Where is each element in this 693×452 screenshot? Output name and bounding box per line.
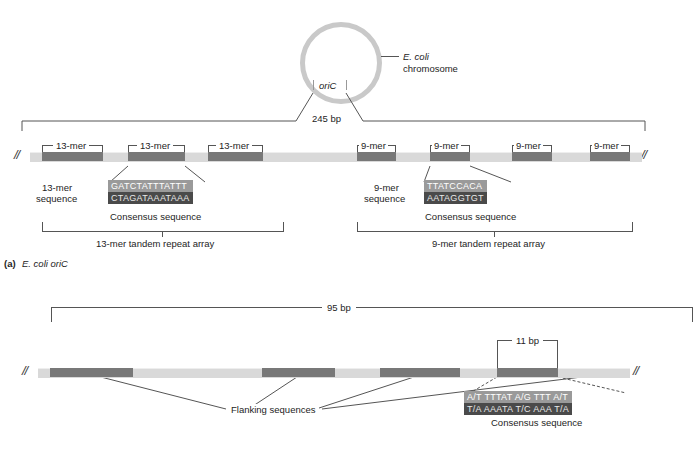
thirteen-mer-seq-label-line1: 13-mer [42, 182, 72, 193]
span-245bp-label: 245 bp [309, 113, 344, 124]
thirteen-mer-consensus-top: GATCTATTTATTT [108, 180, 193, 192]
panel-b-consensus-bottom: T/A AAATA T/C AAA T/A [464, 403, 572, 415]
nine-mer-array-tick [494, 231, 495, 237]
nine-mer-segment-2 [430, 152, 470, 161]
panel-b-consensus-box: A/T TTTAT A/G TTT A/T T/A AAATA T/C AAA … [464, 391, 572, 415]
dna-break-left-a: // [14, 147, 19, 162]
nine-mer-label-4: 9-mer [592, 140, 621, 151]
nine-mer-consensus-caption: Consensus sequence [425, 211, 516, 222]
flanking-segment-2 [262, 368, 335, 377]
nine-mer-seq-label-line2: sequence [364, 193, 405, 204]
nine-mer-consensus-box: TTATCCACA AATAGGTGT [424, 180, 487, 204]
panel-a-caption-prefix: (a) [4, 258, 16, 269]
span-95bp-label: 95 bp [322, 302, 356, 313]
thirteen-mer-array-label: 13-mer tandem repeat array [96, 238, 214, 249]
thirteen-mer-label-3: 13-mer [216, 140, 252, 151]
thirteen-mer-array-bracket [42, 222, 284, 232]
panel-a-caption: E. coli oriC [22, 258, 68, 269]
chromosome-label-line1: E. coli [403, 51, 429, 62]
chromosome-callout-line [381, 56, 399, 57]
nine-mer-consensus-bottom: AATAGGTGT [424, 192, 487, 204]
thirteen-mer-label-2: 13-mer [137, 140, 173, 151]
nine-mer-array-label: 9-mer tandem repeat array [432, 238, 545, 249]
ecoli-chromosome-circle [300, 22, 382, 104]
oric-label: oriC [319, 80, 336, 91]
nine-mer-label-3: 9-mer [514, 140, 543, 151]
thirteen-mer-array-tick [162, 231, 163, 237]
thirteen-mer-consensus-caption: Consensus sequence [110, 211, 201, 222]
oric-tick-right [346, 80, 347, 90]
nine-mer-label-1: 9-mer [359, 140, 388, 151]
nine-mer-label-2: 9-mer [432, 140, 461, 151]
thirteen-mer-consensus-bottom: CTAGATAAATAAA [108, 192, 193, 204]
panel-b-consensus-caption: Consensus sequence [491, 417, 582, 428]
thirteen-mer-seq-label-line2: sequence [36, 193, 77, 204]
nine-mer-segment-1 [357, 152, 396, 161]
flanking-sequences-label: Flanking sequences [228, 404, 319, 415]
thirteen-mer-label-1: 13-mer [53, 140, 89, 151]
span-11bp-label: 11 bp [512, 335, 543, 346]
dna-break-left-b: // [22, 363, 27, 378]
nine-mer-segment-4 [590, 152, 630, 161]
span-95bp-bracket [51, 307, 693, 322]
nine-mer-array-bracket [357, 222, 633, 232]
thirteen-mer-segment-1 [42, 152, 103, 161]
chromosome-label-line2: chromosome [403, 63, 458, 74]
nine-mer-seq-label-line1: 9-mer [374, 182, 399, 193]
thirteen-mer-segment-3 [208, 152, 263, 161]
nine-mer-segment-3 [512, 152, 552, 161]
nine-mer-consensus-top: TTATCCACA [424, 180, 487, 192]
thirteen-mer-segment-2 [128, 152, 185, 161]
thirteen-mer-consensus-box: GATCTATTTATTT CTAGATAAATAAA [108, 180, 193, 204]
dna-break-right-b: // [633, 363, 638, 378]
flanking-segment-3 [380, 368, 460, 377]
flanking-segment-1 [50, 368, 133, 377]
eleven-bp-element-segment [497, 368, 558, 377]
oric-tick-left [313, 80, 314, 90]
panel-b-consensus-top: A/T TTTAT A/G TTT A/T [464, 391, 572, 403]
